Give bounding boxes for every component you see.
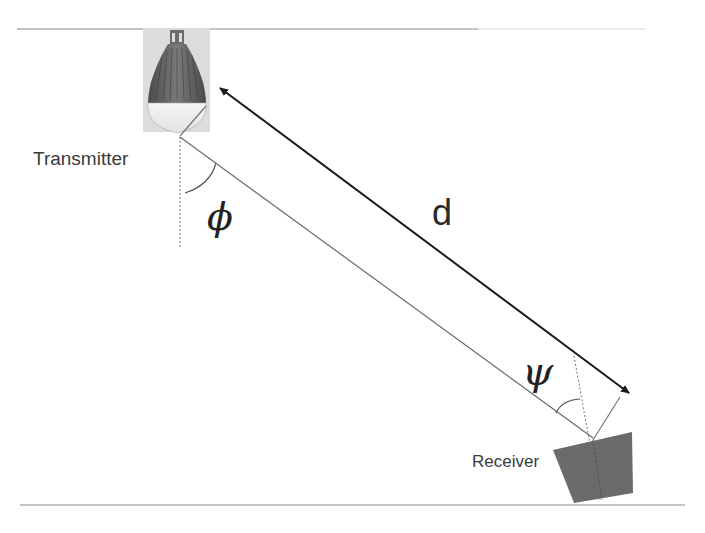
distance-label: d	[432, 192, 452, 234]
diagram-svg	[0, 0, 705, 533]
receiver-icon	[553, 432, 633, 503]
psi-label: ψ	[522, 348, 553, 394]
phi-label: ϕ	[207, 195, 233, 239]
receiver-normal-line	[593, 397, 620, 440]
diagram-canvas: Transmitter Receiver d ϕ ψ	[0, 0, 705, 533]
receiver-label: Receiver	[472, 452, 539, 472]
distance-arrow	[220, 88, 629, 393]
transmitter-label: Transmitter	[33, 148, 128, 170]
phi-angle-arc	[185, 163, 216, 193]
transmitter-bulb-icon	[143, 28, 210, 136]
psi-angle-arc	[556, 399, 580, 413]
